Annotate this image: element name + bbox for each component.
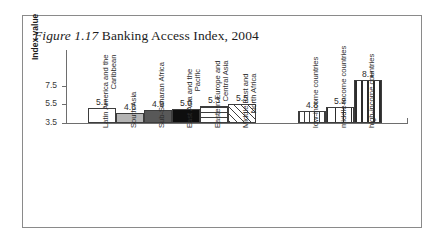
- bar: 5.3Eastern Europe and Central Asia: [200, 106, 228, 123]
- y-axis-title: Index value: [30, 14, 40, 60]
- figure-number: Figure 1.17: [34, 28, 98, 43]
- y-tick: 3.5: [62, 123, 66, 124]
- bar: 4.8low-income countries: [298, 111, 326, 123]
- chart-plot-area: Index value 3.55.57.5 5.1Latin America a…: [66, 56, 411, 131]
- y-tick-label: 5.5: [45, 98, 57, 108]
- y-tick-label: 7.5: [45, 80, 57, 90]
- x-axis-endcap: [407, 118, 408, 124]
- bar: 5.0East Asia and the Pacific: [172, 109, 200, 123]
- figure-container: Figure 1.17 Banking Access Index, 2004 I…: [22, 15, 422, 228]
- bar-category-label: low-income countries: [312, 57, 320, 128]
- bar: 4.6South Asia: [116, 113, 144, 123]
- bar-category-label: high-income countries: [368, 54, 376, 128]
- bar-category-label: middle-income countries: [340, 46, 348, 128]
- bar: 5.1Latin America and the Caribbean: [88, 108, 116, 123]
- y-tick-label: 3.5: [45, 117, 57, 127]
- y-tick: 5.5: [62, 104, 66, 105]
- bar-category-label: Middle East and North Africa: [242, 74, 259, 128]
- figure-title: Figure 1.17 Banking Access Index, 2004: [34, 28, 259, 44]
- y-tick: 7.5: [62, 86, 66, 87]
- y-axis-line: [66, 50, 67, 123]
- bar: 5.2middle-income countries: [326, 107, 354, 123]
- bar-category-label: Sub-Saharan Africa: [158, 62, 166, 128]
- bar: 5.5Middle East and North Africa: [228, 104, 256, 123]
- bar-category-label: South Asia: [130, 92, 138, 128]
- bar: 8.1high-income countries: [354, 80, 382, 123]
- bar: 4.9Sub-Saharan Africa: [144, 110, 172, 123]
- figure-caption: Banking Access Index, 2004: [98, 28, 259, 43]
